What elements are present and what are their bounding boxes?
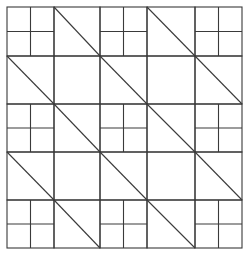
quilt-pattern-diagram — [0, 0, 247, 258]
